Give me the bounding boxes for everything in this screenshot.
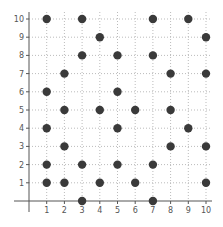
data-point <box>60 106 68 114</box>
data-point <box>202 142 210 150</box>
data-point <box>166 106 174 114</box>
y-tick-label: 7 <box>19 70 24 79</box>
data-point <box>131 179 139 187</box>
data-point <box>43 124 51 132</box>
data-point <box>202 33 210 41</box>
x-tick-label: 6 <box>133 206 138 215</box>
data-point <box>96 33 104 41</box>
scatter-chart: 1234567891012345678910 <box>0 0 223 227</box>
data-point <box>166 142 174 150</box>
data-point <box>60 179 68 187</box>
data-point <box>78 197 86 205</box>
x-tick-label: 8 <box>168 206 173 215</box>
data-point <box>113 51 121 59</box>
data-point <box>60 69 68 77</box>
data-point <box>149 51 157 59</box>
x-tick-label: 7 <box>150 206 155 215</box>
y-tick-label: 2 <box>19 161 24 170</box>
data-point <box>78 160 86 168</box>
data-point <box>113 124 121 132</box>
data-point <box>78 15 86 23</box>
data-point <box>184 15 192 23</box>
x-tick-label: 10 <box>201 206 211 215</box>
y-tick-label: 8 <box>19 51 24 60</box>
x-tick-label: 4 <box>97 206 102 215</box>
x-tick-label: 2 <box>62 206 67 215</box>
data-point <box>202 179 210 187</box>
data-point <box>78 51 86 59</box>
data-point <box>113 88 121 96</box>
y-tick-label: 9 <box>19 33 24 42</box>
data-point <box>166 69 174 77</box>
data-point <box>149 15 157 23</box>
data-point <box>131 106 139 114</box>
data-point <box>60 142 68 150</box>
data-point <box>96 179 104 187</box>
y-tick-label: 5 <box>19 106 24 115</box>
x-tick-label: 3 <box>80 206 85 215</box>
y-tick-label: 3 <box>19 142 24 151</box>
data-point <box>149 197 157 205</box>
data-point <box>202 69 210 77</box>
data-point <box>149 160 157 168</box>
data-point <box>43 179 51 187</box>
data-point <box>43 15 51 23</box>
y-tick-label: 6 <box>19 88 24 97</box>
data-point <box>43 88 51 96</box>
data-point <box>184 124 192 132</box>
grid-lines <box>29 12 212 201</box>
x-tick-label: 1 <box>44 206 49 215</box>
x-tick-label: 5 <box>115 206 120 215</box>
y-tick-label: 10 <box>14 15 24 24</box>
x-tick-label: 9 <box>186 206 191 215</box>
data-point <box>96 106 104 114</box>
data-point <box>113 160 121 168</box>
data-point <box>43 160 51 168</box>
y-tick-label: 1 <box>19 179 24 188</box>
y-tick-label: 4 <box>19 124 24 133</box>
